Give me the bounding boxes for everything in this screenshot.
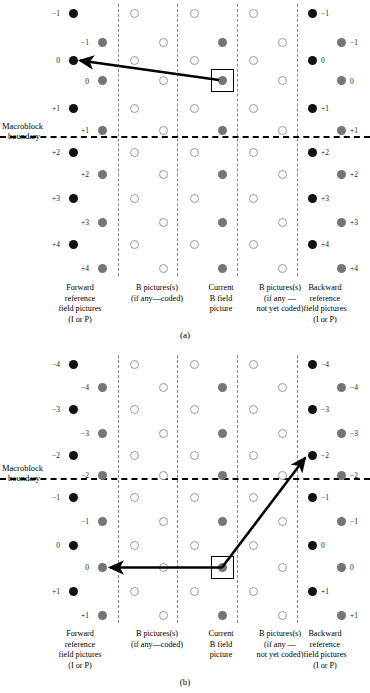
- row-label-right-6: −1: [321, 494, 343, 502]
- dot-current-row4: [190, 104, 199, 113]
- dot-backward-row4-target: [308, 451, 317, 460]
- row-label-right-7: −1: [350, 518, 370, 526]
- dot-current-row5: [218, 471, 227, 480]
- dot-current-row2: [190, 405, 199, 414]
- caption-line: picture: [210, 650, 233, 659]
- row-label-right-10: +4: [321, 241, 343, 249]
- dot-bcoded-row3: [159, 76, 168, 85]
- dot-bnotcoded-row7: [278, 170, 287, 179]
- dot-forward-row11: [98, 611, 107, 620]
- column-separator-2: [177, 4, 178, 276]
- dot-forward-row6: [69, 493, 78, 502]
- dot-bcoded-row9: [159, 218, 168, 227]
- dot-current-row8: [190, 194, 199, 203]
- column-separator-4: [297, 4, 298, 276]
- current-block-highlight-box: [211, 69, 234, 92]
- row-label-left-3: 0: [67, 78, 89, 86]
- dot-current-row10: [190, 587, 199, 596]
- dot-forward-row0: [69, 9, 78, 18]
- row-label-right-8: 0: [321, 542, 343, 550]
- dot-backward-row5: [337, 471, 346, 480]
- dot-backward-row5: [337, 126, 346, 135]
- caption-line: (if any—coded): [131, 294, 183, 303]
- figure-caption-a: (a): [0, 330, 370, 340]
- dot-bcoded-row2: [130, 56, 139, 65]
- row-label-right-1: −4: [350, 384, 370, 392]
- caption-line: (I or P): [313, 315, 337, 324]
- dot-current-row11: [218, 264, 227, 273]
- caption-line: B field: [210, 294, 233, 303]
- row-label-right-6: +2: [321, 149, 343, 157]
- figure-a: Macroblock boundary −1 −1 −1 −1 0 0 0: [0, 0, 370, 345]
- row-label-right-0: −4: [321, 361, 343, 369]
- caption-line: picture: [210, 304, 233, 313]
- column-separator-1: [118, 355, 119, 623]
- row-label-left-11: +4: [67, 265, 89, 273]
- dot-backward-row3: [337, 76, 346, 85]
- dot-bnotcoded-row0: [249, 9, 258, 18]
- dot-bnotcoded-row2: [249, 405, 258, 414]
- dot-forward-row11: [98, 264, 107, 273]
- row-label-right-11: +1: [350, 612, 370, 620]
- caption-line: Forward: [66, 629, 94, 638]
- dot-bnotcoded-row7: [278, 517, 287, 526]
- dot-backward-row2: [308, 405, 317, 414]
- dot-bnotcoded-row11: [278, 264, 287, 273]
- dot-bnotcoded-row5: [278, 471, 287, 480]
- dot-backward-row11: [337, 264, 346, 273]
- dot-bcoded-row5: [159, 126, 168, 135]
- dot-current-row10: [190, 240, 199, 249]
- column-caption-b-pictures-coded: B pictures(s) (if any—coded): [112, 283, 202, 304]
- row-label-left-7: −1: [67, 518, 89, 526]
- dot-current-row4: [190, 451, 199, 460]
- dot-bnotcoded-row8: [249, 194, 258, 203]
- caption-line: Current: [208, 629, 233, 638]
- dot-bnotcoded-row3: [278, 76, 287, 85]
- dot-forward-row1: [98, 383, 107, 392]
- dot-forward-row9: [98, 218, 107, 227]
- row-label-left-9: +3: [67, 219, 89, 227]
- row-label-left-8: 0: [38, 542, 60, 550]
- dot-forward-row9-target: [98, 563, 107, 572]
- dot-bcoded-row1: [159, 38, 168, 47]
- dot-bcoded-row4: [130, 451, 139, 460]
- macroblock-boundary-label: Macroblock boundary: [2, 121, 43, 141]
- row-label-left-10: +4: [38, 241, 60, 249]
- column-separator-1: [118, 4, 119, 276]
- dot-current-row3: [218, 429, 227, 438]
- dot-backward-row0: [308, 9, 317, 18]
- dot-current-row6: [190, 148, 199, 157]
- row-label-right-4: −2: [321, 452, 343, 460]
- dot-bcoded-row11: [159, 264, 168, 273]
- current-block-highlight-box: [211, 556, 234, 579]
- dot-bnotcoded-row2: [249, 56, 258, 65]
- dot-current-row5: [218, 126, 227, 135]
- dot-bnotcoded-row9: [278, 218, 287, 227]
- dot-bcoded-row7: [159, 517, 168, 526]
- dot-bnotcoded-row4: [249, 451, 258, 460]
- macroblock-boundary-line: [0, 136, 370, 138]
- dot-current-row8: [190, 541, 199, 550]
- dot-backward-row6: [308, 493, 317, 502]
- row-label-right-0: −1: [321, 10, 343, 18]
- dot-bnotcoded-row10: [249, 240, 258, 249]
- dot-forward-row2: [69, 56, 78, 65]
- dot-bcoded-row8: [130, 194, 139, 203]
- dot-bcoded-row3: [159, 429, 168, 438]
- dot-backward-row10: [308, 240, 317, 249]
- backward-vector: [222, 458, 305, 568]
- dot-backward-row7: [337, 517, 346, 526]
- dot-current-row1: [218, 38, 227, 47]
- dot-bcoded-row4: [130, 104, 139, 113]
- row-label-left-4: −2: [38, 452, 60, 460]
- row-label-left-10: +1: [38, 588, 60, 596]
- dot-bnotcoded-row0: [249, 360, 258, 369]
- dot-bnotcoded-row10: [249, 587, 258, 596]
- row-label-left-7: +2: [67, 171, 89, 179]
- dot-current-row9: [218, 218, 227, 227]
- dot-forward-row10: [69, 587, 78, 596]
- caption-line: Current: [208, 283, 233, 292]
- row-label-left-8: +3: [38, 195, 60, 203]
- macroblock-boundary-label-line2: boundary: [2, 473, 43, 483]
- column-separator-2: [177, 355, 178, 623]
